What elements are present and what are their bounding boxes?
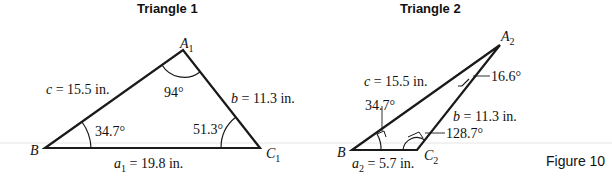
triangle1-side-a: a1 = 19.8 in.: [114, 156, 183, 174]
triangle1-angle-A-arc: [162, 65, 200, 77]
triangle2-angle-C-label: 128.7°: [446, 126, 483, 141]
triangle1-side-b: b = 11.3 in.: [231, 91, 295, 106]
triangle2-side-b: b = 11.3 in.: [453, 109, 517, 124]
triangles-diagram: A1 B C1 c = 15.5 in. b = 11.3 in. a1 = 1…: [0, 0, 612, 177]
triangle1-angle-C-label: 51.3°: [193, 122, 223, 137]
triangle1-shape: [45, 50, 260, 148]
triangle2-side-a: a2 = 5.7 in.: [352, 156, 414, 174]
triangle2-angle-B-label: 34.7°: [365, 98, 395, 113]
triangle1-vertex-C: C1: [266, 146, 280, 164]
triangle2-angle-B-arc: [377, 134, 381, 150]
triangle2-vertex-B: B: [337, 145, 346, 160]
triangle2-vertex-A: A2: [500, 29, 515, 47]
triangle1-angle-A-label: 94°: [164, 85, 184, 100]
triangle2-angle-A-label: 16.6°: [491, 69, 521, 84]
triangle1-angle-B-label: 34.7°: [95, 124, 125, 139]
triangle1-vertex-B: B: [30, 143, 39, 158]
triangle2-side-c: c = 15.5 in.: [364, 74, 428, 89]
triangle2-vertex-C: C2: [424, 148, 438, 166]
triangle1-angle-B-arc: [82, 122, 91, 148]
triangle1: A1 B C1 c = 15.5 in. b = 11.3 in. a1 = 1…: [30, 36, 295, 174]
triangle2: A2 B C2 c = 15.5 in. b = 11.3 in. a2 = 5…: [337, 29, 521, 174]
triangle1-side-c: c = 15.5 in.: [46, 82, 110, 97]
